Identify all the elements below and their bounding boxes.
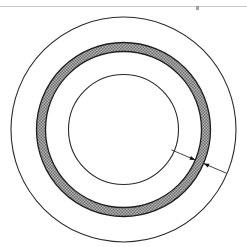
figure-canvas xyxy=(0,0,247,247)
ring-diagram-svg xyxy=(0,0,247,247)
